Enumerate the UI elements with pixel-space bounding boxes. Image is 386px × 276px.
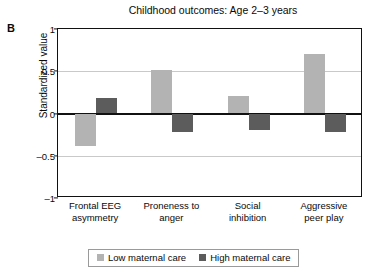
y-tick-label: 0 xyxy=(25,108,55,119)
bar-high-0 xyxy=(96,98,117,113)
chart-title: Childhood outcomes: Age 2–3 years xyxy=(63,4,363,16)
x-category-line: Aggressive xyxy=(279,200,369,212)
bar-high-1 xyxy=(172,114,193,133)
bar-low-3 xyxy=(304,54,325,113)
y-tick-label: 0.5 xyxy=(25,66,55,77)
legend-entry-high: High maternal care xyxy=(199,252,290,263)
legend-entry-low: Low maternal care xyxy=(97,252,186,263)
legend-label-low: Low maternal care xyxy=(108,252,186,263)
legend-label-high: High maternal care xyxy=(210,252,290,263)
bar-low-0 xyxy=(75,114,96,146)
x-category-label-3: Aggressivepeer play xyxy=(279,200,369,223)
y-tick-label: 1 xyxy=(25,24,55,35)
legend-swatch-low-icon xyxy=(97,254,104,261)
panel-label: B xyxy=(7,22,15,34)
plot-area: 10.50–0.5–1 xyxy=(57,28,362,197)
bar-high-3 xyxy=(325,114,346,133)
legend-swatch-high-icon xyxy=(199,254,206,261)
chart-legend: Low maternal care High maternal care xyxy=(88,249,299,267)
x-category-line: peer play xyxy=(279,212,369,224)
bar-high-2 xyxy=(249,114,270,131)
gridline xyxy=(58,156,361,157)
y-tick-label: –0.5 xyxy=(25,150,55,161)
bar-low-2 xyxy=(228,96,249,114)
bar-low-1 xyxy=(151,70,172,113)
